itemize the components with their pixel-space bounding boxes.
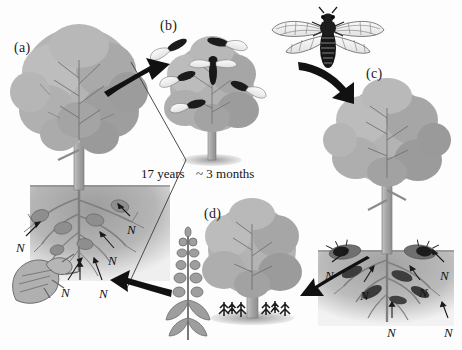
nitrogen-label-c-6: N	[444, 325, 453, 341]
panel-label-c: (c)	[366, 66, 382, 82]
panel-label-b: (b)	[160, 18, 177, 34]
tree-canopy-a	[10, 24, 148, 154]
nitrogen-label-c-4: N	[419, 285, 428, 301]
adult-cicada-illustration	[272, 7, 384, 68]
panel-c-illustration	[318, 78, 454, 326]
nitrogen-label-a-5: N	[127, 222, 136, 238]
nitrogen-label-a-3: N	[99, 286, 108, 302]
panel-a-illustration	[10, 24, 170, 303]
nitrogen-label-a-1: N	[16, 240, 25, 256]
time-label-17-years: 17 years	[141, 166, 185, 182]
time-label-3-months: ~ 3 months	[196, 166, 254, 182]
panel-d-illustration	[166, 198, 302, 340]
nitrogen-label-c-2: N	[360, 288, 369, 304]
flowering-plant-d	[166, 227, 210, 340]
nitrogen-label-c-3: N	[387, 325, 396, 341]
arrow-adult-to-c	[298, 62, 354, 104]
panel-b-illustration	[148, 34, 268, 166]
nitrogen-label-c-1: N	[325, 268, 334, 284]
panel-label-a: (a)	[14, 40, 30, 56]
figure-canvas: (a) (b) (c) (d) 17 years ~ 3 months N N …	[0, 0, 462, 350]
nitrogen-label-a-4: N	[108, 253, 117, 269]
panel-label-d: (d)	[204, 206, 221, 222]
nitrogen-label-a-2: N	[61, 285, 70, 301]
nitrogen-label-c-5: N	[440, 268, 449, 284]
